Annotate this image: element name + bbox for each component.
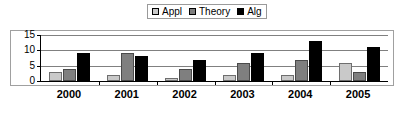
legend-label-theory: Theory — [199, 7, 230, 17]
x-tick-mark — [215, 81, 216, 85]
y-tick-label: 0 — [29, 76, 35, 86]
bar-theory-2004 — [295, 60, 308, 81]
bar-alg-2005 — [367, 47, 380, 81]
bar-theory-2001 — [121, 53, 134, 81]
bar-alg-2004 — [309, 41, 322, 81]
bar-appl-2004 — [281, 75, 294, 81]
legend-label-alg: Alg — [247, 7, 261, 17]
legend-swatch-appl-icon — [152, 8, 159, 15]
bar-appl-2005 — [339, 63, 352, 81]
bar-theory-2003 — [237, 63, 250, 81]
bar-appl-2000 — [49, 72, 62, 81]
bar-alg-2001 — [135, 56, 148, 81]
bar-theory-2002 — [179, 69, 192, 81]
bar-appl-2003 — [223, 75, 236, 81]
bar-group — [99, 35, 157, 81]
legend-swatch-alg-icon — [237, 8, 244, 15]
bar-alg-2000 — [77, 53, 90, 81]
bar-group — [41, 35, 99, 81]
bar-group — [157, 35, 215, 81]
x-tick-label-2001: 2001 — [115, 89, 139, 100]
x-tick-mark — [330, 81, 331, 85]
bar-alg-2002 — [193, 60, 206, 81]
legend-swatch-theory-icon — [189, 8, 196, 15]
y-tick-mark — [37, 81, 41, 82]
legend-label-appl: Appl — [162, 7, 182, 17]
legend-entry-theory: Theory — [189, 7, 230, 17]
y-tick-label: 5 — [29, 61, 35, 71]
bar-group — [272, 35, 330, 81]
x-tick-label-2003: 2003 — [230, 89, 254, 100]
x-tick-mark — [157, 81, 158, 85]
legend-entry-appl: Appl — [152, 7, 182, 17]
bar-theory-2005 — [353, 72, 366, 81]
bar-theory-2000 — [63, 69, 76, 81]
bar-appl-2002 — [165, 78, 178, 81]
chart-legend: Appl Theory Alg — [147, 4, 267, 19]
y-tick-label: 15 — [24, 30, 35, 40]
bar-group — [215, 35, 273, 81]
x-tick-label-2004: 2004 — [288, 89, 312, 100]
legend-entry-alg: Alg — [237, 7, 261, 17]
y-tick-label: 10 — [24, 45, 35, 55]
x-tick-mark — [272, 81, 273, 85]
x-tick-mark — [99, 81, 100, 85]
bar-chart: Appl Theory Alg 051015 20002001200220032… — [0, 0, 404, 117]
plot-area: 051015 — [40, 35, 388, 82]
bar-alg-2003 — [251, 53, 264, 81]
bar-appl-2001 — [107, 75, 120, 81]
bar-group — [330, 35, 388, 81]
x-tick-label-2005: 2005 — [346, 89, 370, 100]
x-tick-label-2000: 2000 — [57, 89, 81, 100]
x-tick-label-2002: 2002 — [172, 89, 196, 100]
